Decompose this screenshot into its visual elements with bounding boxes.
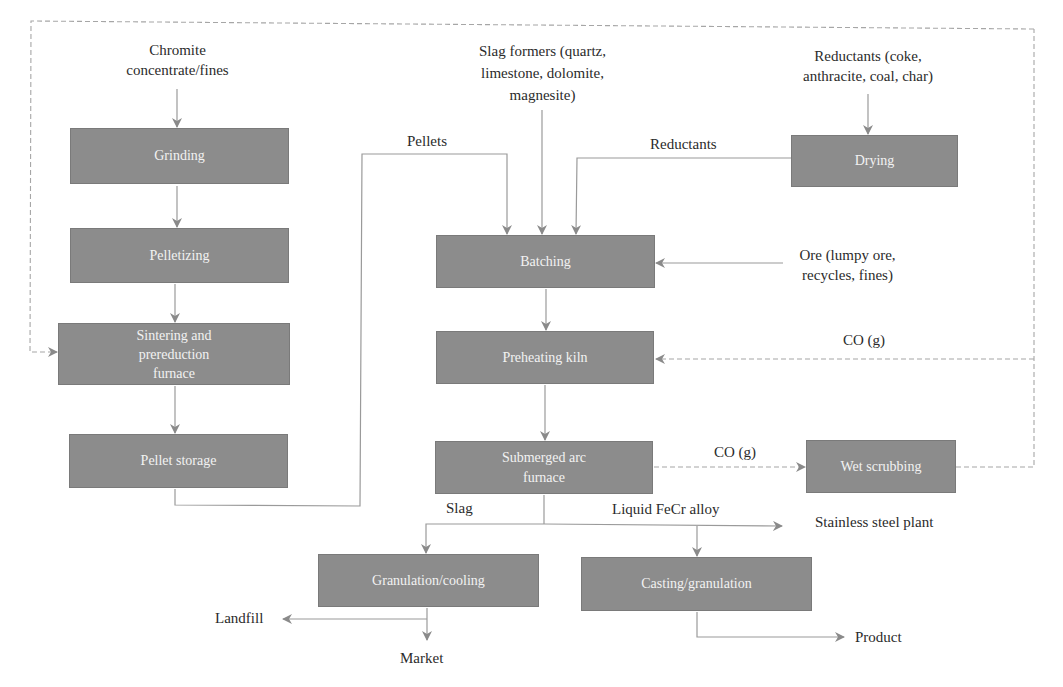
saf-label-line2: furnace	[523, 468, 565, 488]
process-box-batching: Batching	[436, 235, 655, 288]
process-box-submerged-arc-furnace: Submerged arc furnace	[435, 441, 653, 494]
arrow-fecr-to-stainless	[544, 524, 782, 526]
chromite-line2: concentrate/fines	[100, 60, 255, 80]
sintering-label-line3: furnace	[153, 364, 195, 383]
label-co-g-kiln: CO (g)	[843, 330, 885, 350]
process-box-granulation-cooling: Granulation/cooling	[318, 554, 539, 607]
ore-line2: recycles, fines)	[785, 265, 910, 285]
process-box-pelletizing: Pelletizing	[70, 228, 289, 283]
label-market: Market	[400, 648, 443, 668]
arrow-casting-to-product	[697, 612, 844, 637]
grinding-label: Grinding	[154, 147, 205, 165]
slag-formers-line1: Slag formers (quartz,	[455, 40, 630, 62]
process-box-grinding: Grinding	[70, 128, 289, 184]
slag-formers-line3: magnesite)	[455, 84, 630, 106]
sintering-label-line2: prereduction	[139, 345, 210, 364]
batching-label: Batching	[520, 253, 571, 271]
process-box-drying: Drying	[791, 135, 958, 187]
drying-label: Drying	[855, 152, 895, 170]
arrow-slag-to-granulation	[426, 524, 544, 553]
pellet-storage-label: Pellet storage	[141, 452, 217, 470]
sintering-label-line1: Sintering and	[136, 326, 211, 345]
label-landfill: Landfill	[215, 608, 263, 628]
label-ore: Ore (lumpy ore, recycles, fines)	[785, 245, 910, 285]
label-stainless-steel-plant: Stainless steel plant	[815, 512, 933, 532]
chromite-line1: Chromite	[100, 40, 255, 60]
casting-granulation-label: Casting/granulation	[641, 575, 751, 593]
saf-label-line1: Submerged arc	[502, 448, 586, 468]
label-liquid-fecr: Liquid FeCr alloy	[612, 499, 720, 519]
process-box-preheating-kiln: Preheating kiln	[436, 331, 654, 384]
label-slag-formers: Slag formers (quartz, limestone, dolomit…	[455, 40, 630, 106]
pelletizing-label: Pelletizing	[150, 247, 210, 265]
label-reductants-source: Reductants (coke, anthracite, coal, char…	[778, 46, 958, 86]
label-chromite: Chromite concentrate/fines	[100, 40, 255, 80]
arrow-reductants-to-batching	[576, 158, 791, 234]
preheating-kiln-label: Preheating kiln	[502, 349, 587, 367]
reductants-source-line1: Reductants (coke,	[778, 46, 958, 66]
process-box-pellet-storage: Pellet storage	[69, 434, 288, 488]
label-product: Product	[855, 627, 902, 647]
wet-scrubbing-label: Wet scrubbing	[841, 458, 922, 476]
granulation-cooling-label: Granulation/cooling	[372, 572, 485, 590]
slag-formers-line2: limestone, dolomite,	[455, 62, 630, 84]
label-slag: Slag	[446, 498, 473, 518]
label-co-g-saf: CO (g)	[714, 442, 756, 462]
ore-line1: Ore (lumpy ore,	[785, 245, 910, 265]
process-box-casting-granulation: Casting/granulation	[581, 557, 812, 611]
dashed-line-scrubbing-out	[956, 29, 1034, 467]
reductants-source-line2: anthracite, coal, char)	[778, 66, 958, 86]
label-pellets: Pellets	[407, 131, 447, 151]
label-reductants: Reductants	[650, 134, 717, 154]
process-box-sintering: Sintering and prereduction furnace	[58, 323, 290, 385]
process-box-wet-scrubbing: Wet scrubbing	[806, 440, 956, 493]
